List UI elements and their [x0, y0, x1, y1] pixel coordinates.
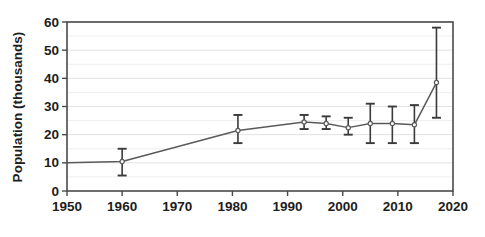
error-bar — [432, 28, 441, 118]
data-point-marker — [324, 121, 328, 125]
y-tick-label: 20 — [44, 127, 59, 142]
x-tick-label: 1970 — [162, 199, 192, 214]
data-point-markers — [120, 80, 439, 163]
data-point-marker — [120, 159, 124, 163]
x-tick-label: 1950 — [52, 199, 82, 214]
x-axis-tick-labels: 19501960197019801990200020102020 — [52, 199, 468, 214]
plot-gridlines — [67, 22, 453, 177]
y-tick-label: 40 — [44, 71, 59, 86]
data-point-marker — [346, 126, 350, 130]
y-tick-label: 50 — [44, 43, 59, 58]
y-axis-title: Population (thousands) — [10, 32, 25, 183]
y-tick-label: 10 — [44, 155, 59, 170]
x-tick-label: 1990 — [273, 199, 303, 214]
data-point-marker — [302, 120, 306, 124]
x-tick-label: 1980 — [217, 199, 247, 214]
x-tick-label: 1960 — [107, 199, 137, 214]
y-axis-tick-labels: 0102030405060 — [44, 15, 59, 199]
y-tick-label: 0 — [51, 184, 59, 199]
x-tick-label: 2000 — [328, 199, 358, 214]
data-point-marker — [434, 80, 438, 84]
y-tick-label: 30 — [44, 99, 59, 114]
population-line-chart: 0102030405060 19501960197019801990200020… — [0, 0, 485, 237]
chart-figure: 0102030405060 19501960197019801990200020… — [0, 0, 485, 237]
y-tick-label: 60 — [44, 15, 59, 30]
data-point-marker — [236, 128, 240, 132]
data-point-marker — [412, 123, 416, 127]
x-tick-label: 2020 — [438, 199, 468, 214]
data-point-marker — [368, 121, 372, 125]
x-tick-label: 2010 — [383, 199, 413, 214]
data-point-marker — [390, 121, 394, 125]
